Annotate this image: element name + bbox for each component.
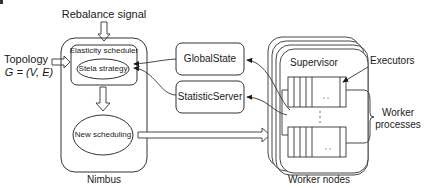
worker-process-top: [288, 77, 346, 107]
globalstate-to-stela-arrow: [134, 59, 176, 64]
global-state-label: GlobalState: [184, 54, 236, 64]
deploy-arrow: [138, 128, 270, 142]
topology-graph-label: G = (V, E): [5, 67, 53, 78]
stela-strategy-label: Stela strategy: [79, 65, 128, 73]
statistic-server-label: StatisticServer: [178, 92, 242, 102]
new-scheduling-label: New scheduling: [75, 131, 131, 139]
elasticity-scheduler-label: Elasticity scheduler: [70, 47, 138, 55]
worker-processes-label-2: processes: [375, 120, 421, 130]
worker-processes-label-1: Worker: [382, 108, 414, 118]
worker-nodes-label: Worker nodes: [288, 175, 350, 185]
schedule-down-arrow: [96, 87, 110, 111]
rebalance-signal-label: Rebalance signal: [62, 9, 146, 20]
corner-mark: [0, 0, 3, 4]
executors-label: Executors: [370, 56, 414, 66]
supervisor-label: Supervisor: [290, 58, 338, 68]
statisticserver-to-stela-arrow: [134, 68, 176, 95]
topology-label: Topology: [4, 54, 48, 65]
worker-process-bottom: [288, 127, 346, 157]
nimbus-label: Nimbus: [87, 175, 121, 185]
